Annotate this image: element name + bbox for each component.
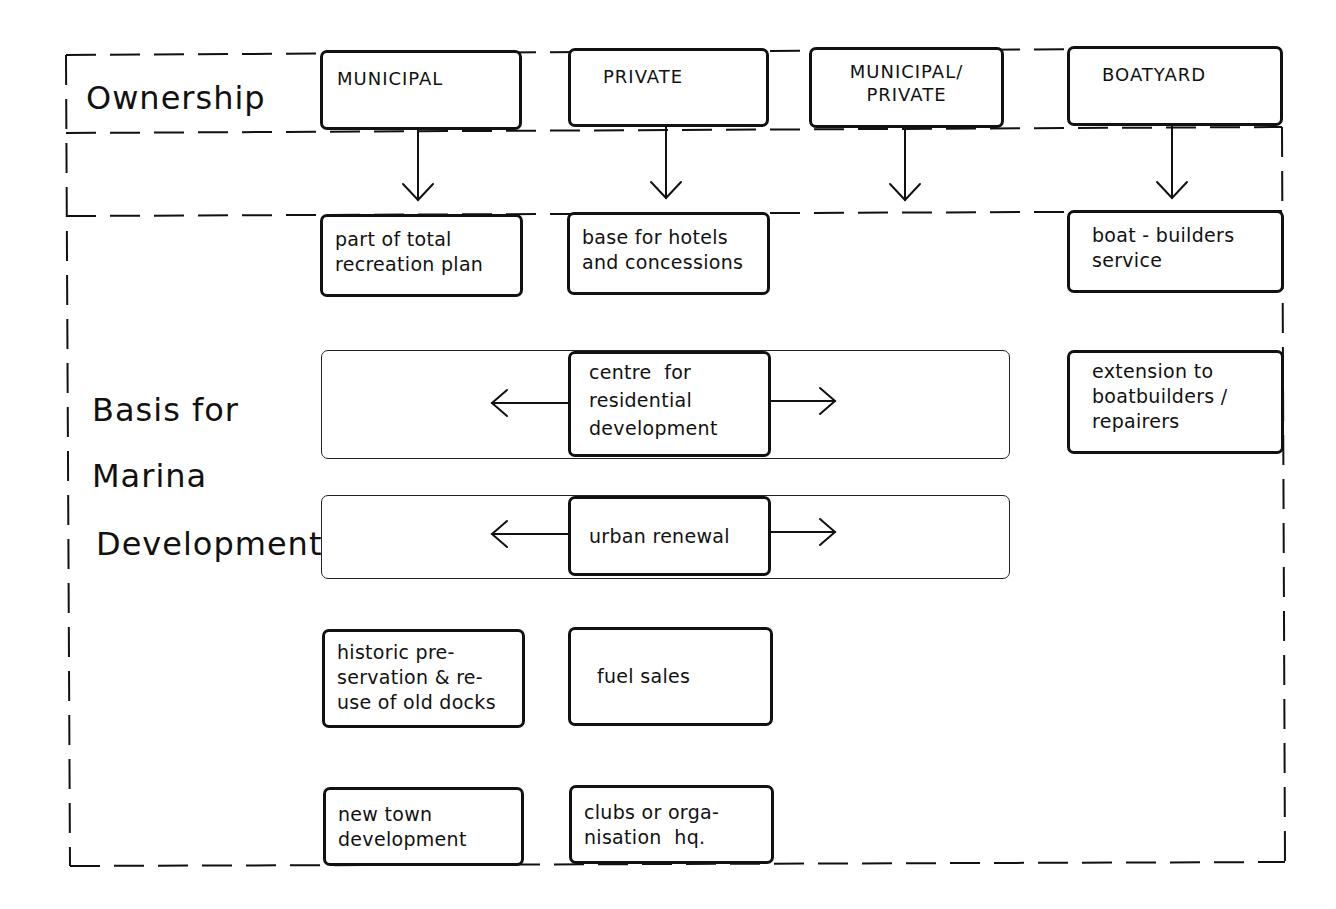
- ownership-label: BOATYARD: [1102, 64, 1206, 85]
- box-text-line: service: [1092, 248, 1269, 273]
- ownership-box-municipal: MUNICIPAL: [320, 50, 522, 130]
- box-text-line: boatbuilders /: [1092, 384, 1269, 409]
- ownership-box-boatyard: BOATYARD: [1067, 46, 1283, 126]
- box-text-line: residential: [589, 386, 756, 414]
- box-text-line: boat - builders: [1092, 223, 1269, 248]
- basis-box-extension: extension to boatbuilders / repairers: [1067, 350, 1284, 454]
- dashed-ownership-divider: [66, 127, 1282, 133]
- box-text-line: development: [338, 827, 509, 852]
- basis-box-clubs: clubs or orga- nisation hq.: [569, 785, 774, 864]
- box-text-line: historic pre-: [337, 640, 510, 665]
- box-text-line: and concessions: [582, 250, 755, 275]
- basis-box-urban-renewal: urban renewal: [568, 496, 771, 576]
- ownership-label: MUNICIPAL: [337, 68, 443, 89]
- ownership-label-line1: MUNICIPAL/: [826, 60, 987, 83]
- box-text-line: fuel sales: [597, 665, 690, 687]
- box-text-line: servation & re-: [337, 665, 510, 690]
- row-label-ownership: Ownership: [86, 78, 266, 118]
- row-label-basis-2: Marina: [92, 456, 207, 496]
- ownership-box-private: PRIVATE: [568, 48, 769, 127]
- box-text-line: part of total: [335, 227, 508, 252]
- ownership-label: PRIVATE: [603, 66, 683, 87]
- basis-box-recreation-plan: part of total recreation plan: [320, 214, 523, 297]
- basis-box-residential: centre for residential development: [568, 351, 771, 457]
- box-text-line: nisation hq.: [584, 825, 759, 850]
- box-text-line: extension to: [1092, 359, 1269, 384]
- row-label-basis-3: Development: [96, 524, 322, 564]
- ownership-label-line2: PRIVATE: [826, 83, 987, 106]
- ownership-box-municipal-private: MUNICIPAL/ PRIVATE: [809, 47, 1004, 128]
- box-text-line: urban renewal: [589, 524, 730, 549]
- basis-box-fuel: fuel sales: [568, 627, 773, 726]
- dashed-left-border: [66, 55, 70, 866]
- box-text-line: centre for: [589, 358, 756, 386]
- box-text-line: new town: [338, 802, 509, 827]
- box-text-line: repairers: [1092, 409, 1269, 434]
- box-text-line: recreation plan: [335, 252, 508, 277]
- basis-box-hotels: base for hotels and concessions: [567, 212, 770, 295]
- box-text-line: development: [589, 414, 756, 442]
- box-text-line: base for hotels: [582, 225, 755, 250]
- box-text-line: use of old docks: [337, 690, 510, 715]
- basis-box-boat-builders: boat - builders service: [1067, 210, 1284, 293]
- box-text-line: clubs or orga-: [584, 800, 759, 825]
- basis-box-new-town: new town development: [323, 787, 524, 866]
- basis-box-historic: historic pre- servation & re- use of old…: [322, 629, 525, 728]
- row-label-basis-1: Basis for: [92, 390, 239, 430]
